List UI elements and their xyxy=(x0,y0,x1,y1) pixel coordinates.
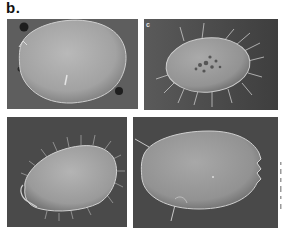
micrograph-sublabel: c xyxy=(146,21,150,28)
specimen-setose-carapace-image xyxy=(7,117,127,227)
vertical-credit-text xyxy=(279,160,283,220)
micrograph-top-right: c xyxy=(144,19,278,110)
specimen-smooth-carapace-image xyxy=(7,19,138,109)
figure-panel-label: b. xyxy=(6,0,20,16)
micrograph-top-left xyxy=(7,19,138,109)
specimen-elongate-carapace-image xyxy=(133,117,278,228)
specimen-spiny-carapace-image: c xyxy=(144,19,278,110)
micrograph-bottom-right xyxy=(133,117,278,228)
micrograph-bottom-left xyxy=(7,117,127,227)
